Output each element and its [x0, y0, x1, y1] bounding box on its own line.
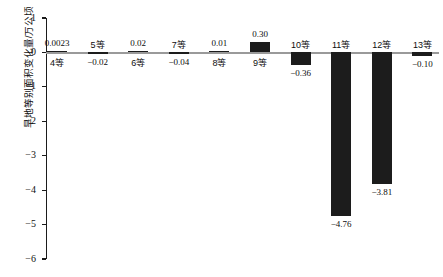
y-axis-tick	[42, 155, 46, 156]
y-axis-line	[46, 18, 47, 259]
y-axis-tick-label: −2	[10, 115, 36, 126]
y-axis-tick	[42, 17, 46, 18]
bar-category-label: 4等	[50, 56, 64, 69]
bar-chart-figure: 旱地等别面积变化量/万公顷 10−1−2−3−4−5−6 0.00234等−0.…	[0, 0, 443, 277]
y-axis-tick-label: −6	[10, 253, 36, 264]
y-axis-tick	[42, 258, 46, 259]
bar-value-label: −0.10	[412, 59, 433, 69]
y-axis-tick	[42, 52, 46, 53]
bar-value-label: −0.36	[290, 68, 311, 78]
bar-category-label: 6等	[131, 56, 145, 69]
bar	[209, 51, 229, 53]
bar-value-label: 0.0023	[45, 38, 70, 48]
bar	[372, 52, 392, 183]
bar-category-label: 12等	[372, 38, 391, 51]
bar	[169, 52, 189, 54]
bar-value-label: −4.76	[331, 219, 352, 229]
bar-category-label: 13等	[413, 38, 432, 51]
bar	[412, 52, 432, 55]
bar-value-label: 0.02	[130, 38, 146, 48]
bar	[128, 51, 148, 53]
bar	[47, 51, 67, 53]
bar-category-label: 9等	[253, 56, 267, 69]
bar	[331, 52, 351, 216]
y-axis-tick-label: −1	[10, 80, 36, 91]
y-axis-tick-label: −4	[10, 184, 36, 195]
y-axis-tick-label: −5	[10, 218, 36, 229]
y-axis-tick-label: −3	[10, 149, 36, 160]
y-axis-tick	[42, 224, 46, 225]
bar-value-label: −3.81	[371, 187, 392, 197]
bar-category-label: 7等	[172, 38, 186, 51]
bar-value-label: 0.01	[212, 38, 228, 48]
bar-category-label: 11等	[332, 38, 350, 51]
bar	[291, 52, 311, 64]
y-axis-tick	[42, 86, 46, 87]
bar-value-label: −0.04	[168, 57, 189, 67]
y-axis-tick-label: 0	[10, 46, 36, 57]
bar-value-label: 0.30	[252, 29, 268, 39]
y-axis-tick-label: 1	[10, 12, 36, 23]
bar-category-label: 8等	[212, 56, 226, 69]
bar	[250, 42, 270, 52]
bar-value-label: −0.02	[87, 57, 108, 67]
bar-category-label: 5等	[91, 38, 105, 51]
bar	[88, 52, 108, 54]
y-axis-tick	[42, 121, 46, 122]
bar-category-label: 10等	[291, 38, 310, 51]
y-axis-tick	[42, 190, 46, 191]
